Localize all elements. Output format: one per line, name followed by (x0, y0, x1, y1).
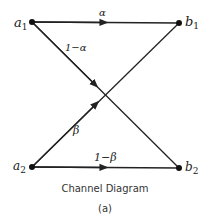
node-a1 (29, 19, 35, 25)
diagram-title: Channel Diagram (61, 183, 148, 194)
label-b2: b2 (185, 160, 198, 176)
label-a2: a2 (13, 159, 26, 175)
edge-label-one-minus-beta: 1−β (94, 151, 117, 164)
edge-label-one-minus-alpha: 1−α (65, 42, 87, 53)
edge-label-beta: β (72, 124, 79, 137)
channel-diagram: a1 b1 a2 b2 α 1−α β 1−β Channel Diagram … (0, 0, 206, 222)
node-a2 (29, 164, 35, 170)
label-b1: b1 (185, 14, 199, 31)
node-b2 (176, 165, 182, 171)
edge-label-alpha: α (99, 7, 106, 18)
diagram-subtitle: (a) (98, 203, 112, 214)
node-b1 (176, 20, 182, 26)
label-a1: a1 (14, 15, 28, 32)
